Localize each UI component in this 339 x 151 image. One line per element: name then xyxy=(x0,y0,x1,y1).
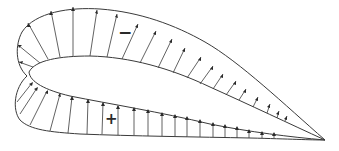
suction-envelope xyxy=(17,9,325,140)
airfoil-upper-surface xyxy=(29,56,325,140)
pressure-sign: + xyxy=(105,110,118,128)
suction-sign: − xyxy=(118,22,132,42)
airfoil-lower-surface xyxy=(29,72,325,140)
airfoil-pressure-diagram: − + xyxy=(0,0,339,151)
pressure-arrows xyxy=(17,82,276,138)
pressure-envelope xyxy=(15,76,325,140)
